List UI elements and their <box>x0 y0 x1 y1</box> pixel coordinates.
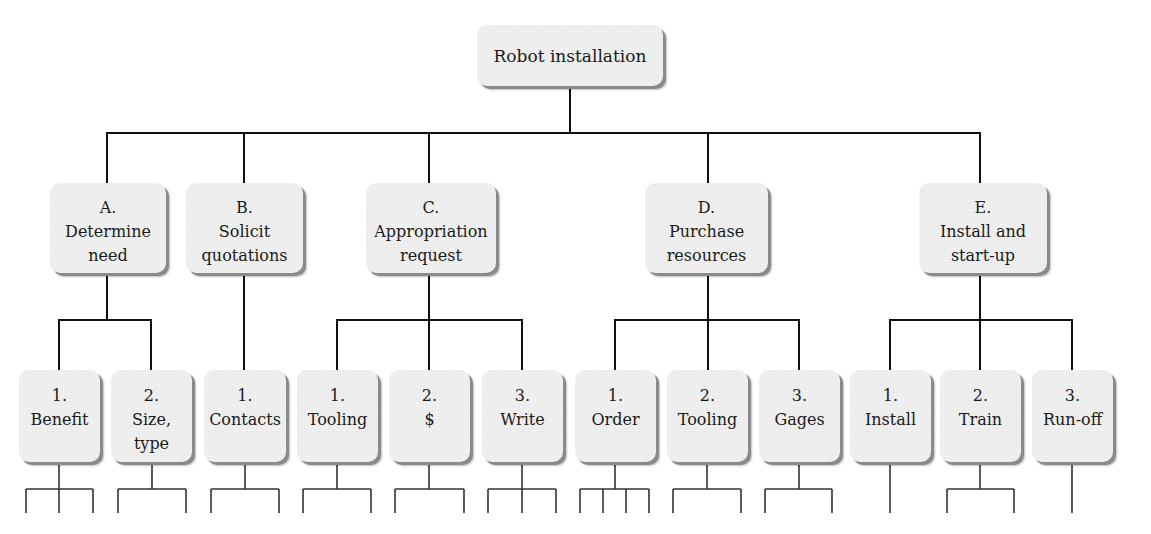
node-number: 3. <box>515 384 530 408</box>
work-breakdown-structure-diagram: Robot installation A. Determine need B. … <box>0 0 1151 534</box>
node-label-line1: Install and <box>940 220 1026 244</box>
node-b-solicit-quotations: B. Solicit quotations <box>186 183 303 273</box>
node-label-line2: resources <box>667 244 747 268</box>
node-number: 2. <box>422 384 437 408</box>
node-number: 1. <box>52 384 67 408</box>
node-label-line1: Order <box>591 408 639 432</box>
node-label-line1: Appropriation <box>374 220 487 244</box>
node-label-line1: Contacts <box>209 408 281 432</box>
node-c3-write: 3. Write <box>482 370 563 462</box>
node-d1-order: 1. Order <box>575 370 656 462</box>
node-label-line2: type <box>134 432 169 456</box>
node-number: 3. <box>1065 384 1080 408</box>
node-letter: C. <box>423 196 440 220</box>
node-letter: D. <box>698 196 715 220</box>
node-e-install-and-start-up: E. Install and start-up <box>919 183 1047 273</box>
node-label-line1: Benefit <box>30 408 88 432</box>
node-a-determine-need: A. Determine need <box>50 183 166 273</box>
node-label-line2: need <box>88 244 127 268</box>
node-label-line1: Install <box>865 408 916 432</box>
node-e2-train: 2. Train <box>940 370 1021 462</box>
node-letter: B. <box>236 196 253 220</box>
node-letter: A. <box>100 196 117 220</box>
node-label-line2: quotations <box>202 244 288 268</box>
node-label-line2: start-up <box>951 244 1015 268</box>
node-d-purchase-resources: D. Purchase resources <box>645 183 768 273</box>
node-number: 2. <box>973 384 988 408</box>
node-number: 2. <box>144 384 159 408</box>
node-label-line1: Gages <box>774 408 824 432</box>
node-label-line1: Purchase <box>669 220 744 244</box>
node-c1-tooling: 1. Tooling <box>297 370 378 462</box>
node-number: 1. <box>608 384 623 408</box>
node-label-line1: Tooling <box>678 408 737 432</box>
node-label-line1: Size, <box>132 408 171 432</box>
node-number: 3. <box>792 384 807 408</box>
node-d2-tooling: 2. Tooling <box>667 370 748 462</box>
node-label-line1: $ <box>424 408 434 432</box>
node-label-line1: Determine <box>65 220 151 244</box>
node-a1-benefit: 1. Benefit <box>19 370 100 462</box>
node-d3-gages: 3. Gages <box>759 370 840 462</box>
node-number: 1. <box>883 384 898 408</box>
node-letter: E. <box>975 196 992 220</box>
node-label-line1: Solicit <box>219 220 270 244</box>
node-e3-run-off: 3. Run-off <box>1032 370 1113 462</box>
node-label: Robot installation <box>494 44 647 68</box>
node-number: 1. <box>330 384 345 408</box>
node-label-line1: Run-off <box>1043 408 1102 432</box>
node-label-line1: Train <box>959 408 1002 432</box>
node-robot-installation: Robot installation <box>477 25 663 86</box>
node-number: 2. <box>700 384 715 408</box>
node-e1-install: 1. Install <box>850 370 931 462</box>
node-a2-size-type: 2. Size, type <box>111 370 192 462</box>
node-c-appropriation-request: C. Appropriation request <box>366 183 496 273</box>
node-b1-contacts: 1. Contacts <box>204 370 286 462</box>
node-label-line1: Write <box>500 408 544 432</box>
node-label-line1: Tooling <box>308 408 367 432</box>
node-label-line2: request <box>400 244 462 268</box>
node-c2-dollar: 2. $ <box>389 370 470 462</box>
node-number: 1. <box>237 384 252 408</box>
